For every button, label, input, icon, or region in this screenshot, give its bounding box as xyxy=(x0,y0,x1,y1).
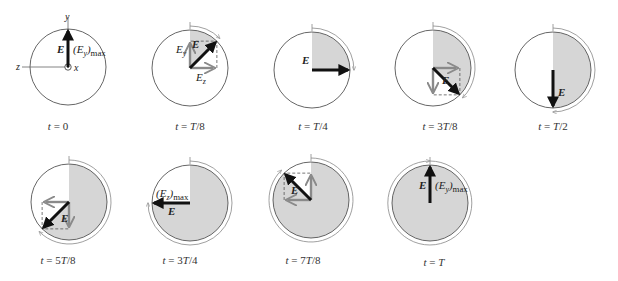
e-vector-label: E xyxy=(301,54,309,66)
panel-t_T: E(Ey)maxt = T xyxy=(388,157,472,268)
panel-t_T2: Et = T/2 xyxy=(515,24,595,132)
magnitude-label: (Ey)max xyxy=(73,43,106,58)
time-caption: t = 5T/8 xyxy=(41,254,76,266)
panel-t_7T8: Et = 7T/8 xyxy=(269,154,353,266)
time-caption: t = T/4 xyxy=(298,120,328,132)
e-vector-label: E xyxy=(441,74,449,86)
panels-group: yzxE(Ey)maxt = 0EyEzEt = T/8Et = T/4Et =… xyxy=(15,11,595,268)
time-caption: t = T/2 xyxy=(538,120,567,132)
time-caption: t = 3T/8 xyxy=(423,120,458,132)
z-axis-label: z xyxy=(15,61,20,72)
e-vector-label: E xyxy=(60,212,68,224)
time-caption: t = 7T/8 xyxy=(286,254,321,266)
x-axis-label: x xyxy=(73,62,79,73)
e-vector-label: E xyxy=(290,184,298,196)
ey-label: Ey xyxy=(175,43,187,58)
e-vector-label: E xyxy=(167,205,175,217)
panel-t_3T8: Et = 3T/8 xyxy=(395,22,475,132)
ez-label: Ez xyxy=(195,71,206,86)
time-caption: t = 3T/4 xyxy=(163,254,198,266)
time-caption: t = T/8 xyxy=(175,120,205,132)
panel-t_3T4: E(Ez)maxt = 3T/4 xyxy=(148,157,232,266)
e-vector-label: E xyxy=(418,179,426,191)
e-vector-label: E xyxy=(191,38,199,50)
panel-t_T4: Et = T/4 xyxy=(274,24,354,132)
e-vector-label: E xyxy=(56,43,64,55)
panel-t_5T8: Et = 5T/8 xyxy=(31,156,111,266)
polarization-diagram: yzxE(Ey)maxt = 0EyEzEt = T/8Et = T/4Et =… xyxy=(0,0,618,281)
y-axis-label: y xyxy=(64,11,70,22)
time-caption: t = T xyxy=(424,256,446,268)
panel-t0: yzxE(Ey)maxt = 0 xyxy=(15,11,106,132)
e-vector-label: E xyxy=(557,86,565,98)
magnitude-label: (Ez)max xyxy=(156,187,189,202)
time-caption: t = 0 xyxy=(48,120,69,132)
panel-t_T8: EyEzEt = T/8 xyxy=(152,22,228,132)
swept-area xyxy=(312,32,350,70)
